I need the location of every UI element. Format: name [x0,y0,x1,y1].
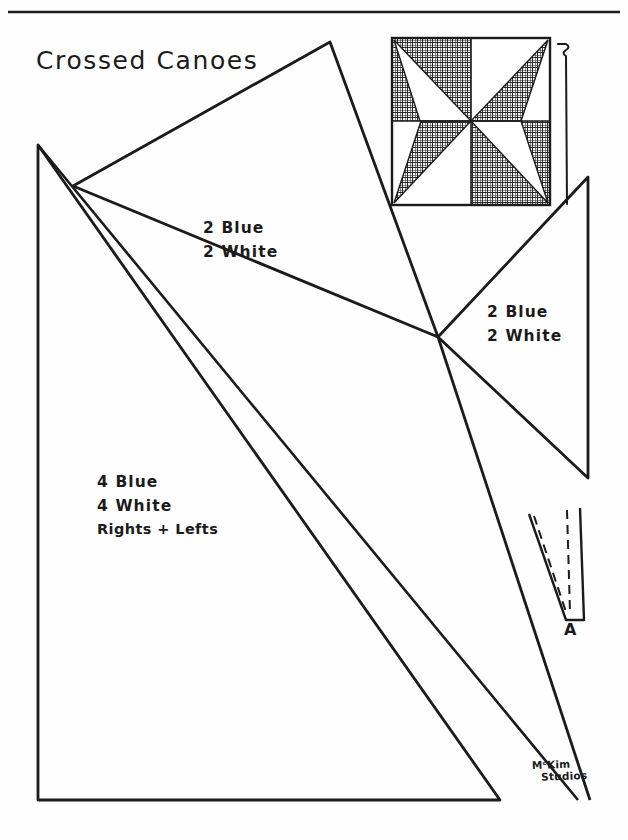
block-size-bracket [558,44,569,204]
label-large-triangle-blue: 2 Blue [203,216,278,240]
piece-large-triangle [73,42,438,337]
block-quadrant-top-left [392,38,471,121]
label-canoe-sliver-white: 4 White [97,494,218,518]
block-quadrant-bottom-right [471,121,550,205]
block-diagram-figure [392,38,569,205]
page-title: Crossed Canoes [36,42,258,81]
label-canoe-sliver: 4 Blue 4 White Rights + Lefts [97,470,218,541]
template-a-letter: A [564,618,577,643]
label-large-triangle-white: 2 White [203,240,278,264]
signature-line-2: Studios [541,769,587,783]
block-quadrant-top-right [471,38,550,121]
label-right-triangle-white: 2 White [487,324,562,348]
label-right-triangle-blue: 2 Blue [487,300,562,324]
pattern-drawing [0,0,628,840]
label-large-triangle: 2 Blue 2 White [203,216,278,264]
signature: MᶜKim Studios [532,757,588,783]
label-right-triangle: 2 Blue 2 White [487,300,562,348]
block-quadrant-bottom-left [392,121,471,205]
label-canoe-sliver-blue: 4 Blue [97,470,218,494]
pattern-sheet: Crossed Canoes 2 Blue 2 White 2 Blue 2 W… [0,0,628,840]
template-a-seam-line-right [567,510,570,612]
template-piece-a [529,508,584,620]
piece-large-triangle-extension [438,337,590,800]
label-canoe-sliver-note: Rights + Lefts [97,518,218,540]
template-a-seam-line-left [534,516,566,612]
